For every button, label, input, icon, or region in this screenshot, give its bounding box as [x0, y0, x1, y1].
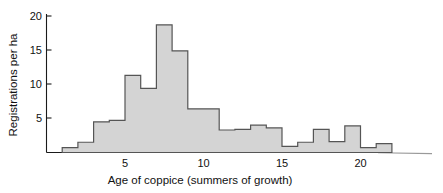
x-tick-label-5: 5 [122, 157, 128, 169]
y-tick-label-5: 5 [36, 112, 42, 124]
y-tick-label-15: 15 [30, 44, 42, 56]
x-tick-label-10: 10 [197, 157, 209, 169]
histogram-bars [62, 25, 392, 153]
y-tick-label-20: 20 [30, 10, 42, 22]
histogram-canvas: Registrations per ha Age of coppice (sum… [0, 0, 443, 193]
y-tick-labels: 20 15 10 5 [30, 10, 42, 124]
histogram-figure: Registrations per ha Age of coppice (sum… [0, 0, 443, 193]
x-axis-title: Age of coppice (summers of growth) [108, 174, 293, 186]
y-tick-marks [47, 16, 52, 118]
x-tick-label-20: 20 [354, 157, 366, 169]
x-tick-label-15: 15 [276, 157, 288, 169]
x-tick-labels: 5 10 15 20 [122, 157, 367, 169]
y-axis-title: Registrations per ha [7, 33, 19, 137]
y-tick-label-10: 10 [30, 78, 42, 90]
